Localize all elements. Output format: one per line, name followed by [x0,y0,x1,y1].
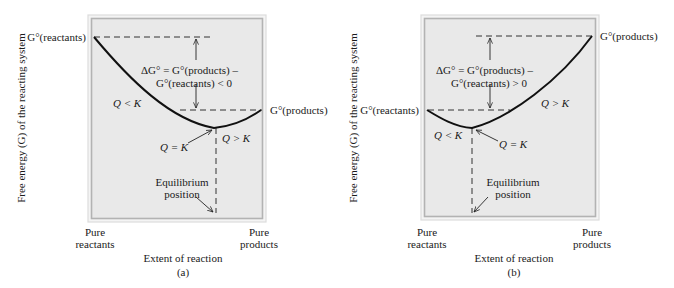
q-equals-k-label: Q = K [160,141,189,153]
equilibrium-position-line1: Equilibrium [486,176,540,188]
x-left-label-line2: reactants [407,238,446,250]
panel-b: Free energy (G) of the reacting system G… [347,15,658,279]
x-right-label-line1: Pure [582,226,602,238]
g-products-label: G°(products) [270,104,328,117]
region-q-less-k: Q < K [113,97,142,109]
x-right-label-line2: products [573,238,611,250]
panel-b-caption: (b) [508,266,521,279]
panel-a-caption: (a) [177,266,190,279]
x-axis-label: Extent of reaction [475,252,554,264]
panel-a: Free energy (G) of the reacting system G… [15,15,328,279]
delta-g-line1: ΔG° = G°(products) – [436,64,533,77]
x-left-label-line1: Pure [85,226,105,238]
delta-g-line2: G°(reactants) < 0 [156,77,232,90]
g-reactants-label: G°(reactants) [360,104,419,117]
delta-g-line2: G°(reactants) > 0 [451,77,527,90]
delta-g-line1: ΔG° = G°(products) – [141,64,238,77]
equilibrium-position-line2: position [495,188,531,200]
g-products-label: G°(products) [600,30,658,43]
x-right-label-line2: products [240,238,278,250]
x-left-label-line2: reactants [75,238,114,250]
x-left-label-line1: Pure [417,226,437,238]
x-axis-label: Extent of reaction [144,252,223,264]
figure: Free energy (G) of the reacting system G… [0,0,674,288]
region-q-greater-k: Q > K [222,132,251,144]
g-reactants-label: G°(reactants) [27,31,86,44]
equilibrium-position-line2: position [164,188,200,200]
region-q-greater-k: Q > K [541,97,570,109]
x-right-label-line1: Pure [249,226,269,238]
region-q-less-k: Q < K [434,129,463,141]
q-equals-k-label: Q = K [499,138,528,150]
equilibrium-position-line1: Equilibrium [155,176,209,188]
y-axis-label: Free energy (G) of the reacting system [15,33,28,203]
y-axis-label: Free energy (G) of the reacting system [347,33,360,203]
